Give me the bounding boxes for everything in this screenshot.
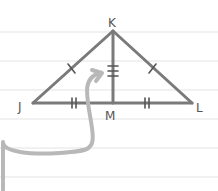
label-k: K: [108, 16, 117, 30]
label-j: J: [17, 100, 22, 114]
label-m: M: [105, 109, 115, 123]
label-l: L: [196, 101, 203, 115]
curved-arrow: [3, 70, 102, 190]
triangle-diagram: K J L M: [0, 0, 218, 191]
triangle-jkl: [33, 31, 192, 103]
segment-kl: [113, 31, 192, 103]
segment-jk: [33, 31, 113, 103]
